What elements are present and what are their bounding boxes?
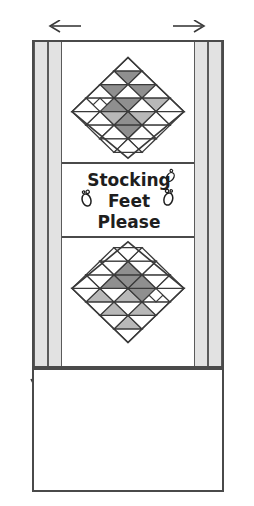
border-strip-right-outer (208, 42, 222, 366)
lower-diamond-block (62, 238, 194, 358)
sign-line-3: Please (98, 212, 161, 232)
border-strip-left-outer (34, 42, 48, 366)
footprint-icon-left (79, 189, 93, 207)
upper-diamond-block (62, 42, 194, 162)
arrow-right-icon (172, 20, 206, 38)
border-strip-right-inner (194, 42, 208, 366)
sign-line-1: Stocking (87, 170, 171, 190)
footprint-icon-right (162, 188, 175, 206)
diagram-canvas: Stocking Feet Please (0, 0, 254, 506)
border-strip-left-inner (48, 42, 62, 366)
sign-line-2: Feet (108, 191, 150, 211)
sign-text-panel: Stocking Feet Please (62, 162, 194, 238)
plain-backing-rectangle (32, 368, 224, 492)
stocking-feet-please-lettering: Stocking Feet Please (65, 165, 191, 235)
quilt-center-column: Stocking Feet Please (62, 42, 194, 366)
quilt-panel: Stocking Feet Please (32, 40, 224, 368)
top-arrow-row (0, 20, 254, 40)
arrow-left-icon (48, 20, 82, 38)
